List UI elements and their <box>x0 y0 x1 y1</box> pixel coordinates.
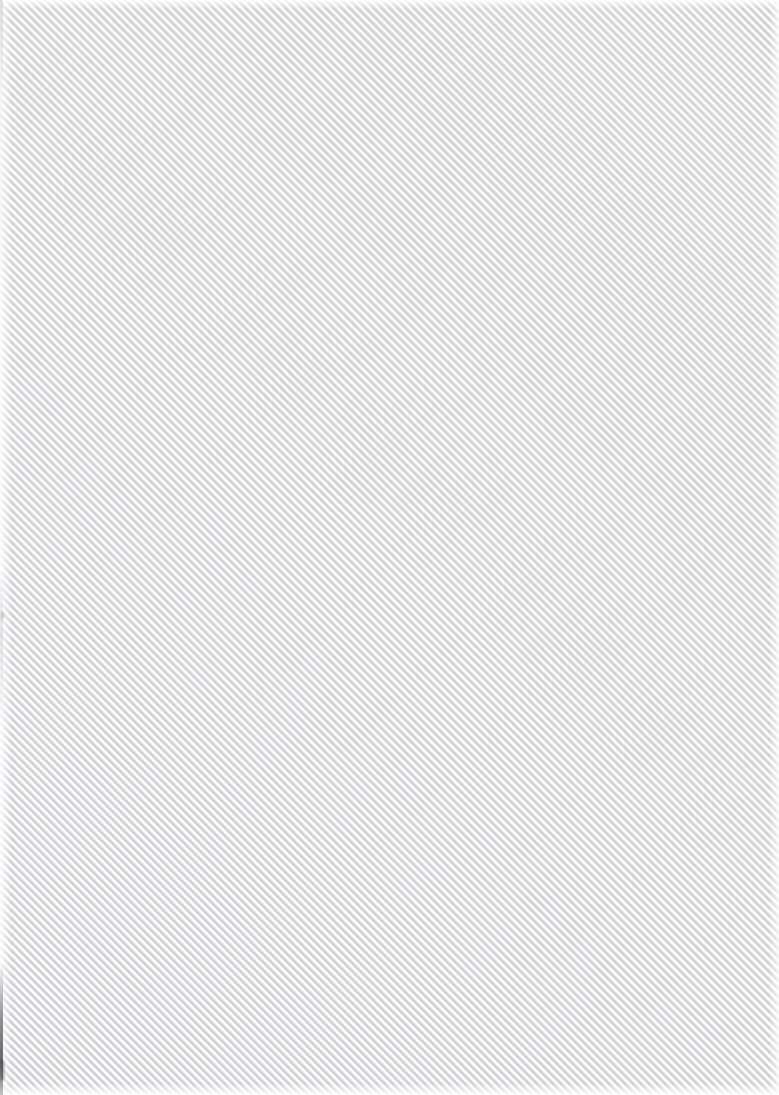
texture-canvas: Full-bleed diagonal stripe texture surfa… <box>0 0 779 1095</box>
weave-overlay <box>0 0 779 1095</box>
